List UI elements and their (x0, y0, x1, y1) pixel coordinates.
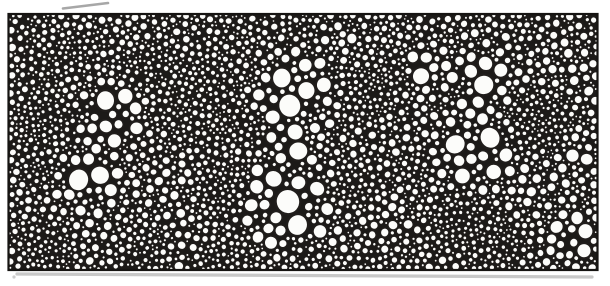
figure (0, 0, 610, 286)
page: { "figure": { "description": "Black-and-… (0, 0, 610, 286)
circle-packing-illustration (0, 0, 610, 286)
